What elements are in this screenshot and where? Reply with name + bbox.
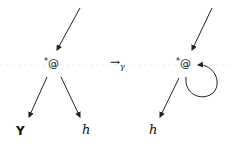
edge-to-h-right	[160, 78, 179, 117]
label-y: Y	[16, 124, 25, 138]
rewrite-relation: →γ	[110, 55, 125, 69]
incoming-edge-right	[192, 8, 212, 50]
right-node-star: *	[176, 57, 180, 66]
diagram-canvas	[0, 0, 233, 146]
right-node: *@	[176, 57, 191, 70]
left-node: *@	[44, 57, 59, 70]
incoming-edge-left	[57, 8, 80, 50]
rewrite-arrow: →	[110, 55, 120, 69]
edge-to-y	[29, 77, 47, 117]
label-h-right: h	[149, 122, 157, 137]
left-node-star: *	[44, 57, 48, 66]
left-node-symbol: @	[48, 57, 59, 70]
right-node-symbol: @	[180, 57, 191, 70]
rewrite-subscript: γ	[120, 62, 125, 71]
label-h-left: h	[82, 122, 90, 137]
edge-to-h-left	[61, 77, 80, 117]
